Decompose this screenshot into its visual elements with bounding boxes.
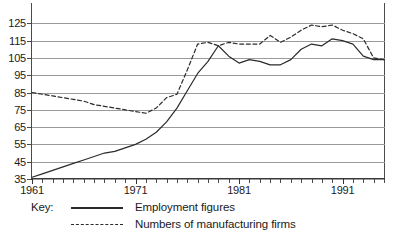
x-tick <box>249 179 250 183</box>
x-tick <box>363 179 364 183</box>
legend-sample-solid <box>71 207 123 209</box>
x-tick <box>53 179 54 183</box>
y-axis-tick-label: 55 <box>0 139 26 150</box>
x-axis-tick-label: 1971 <box>116 185 156 196</box>
x-tick <box>280 179 281 183</box>
legend-row: Key: Employment figures <box>31 199 391 216</box>
x-tick <box>104 179 105 183</box>
x-tick <box>208 179 209 183</box>
plot-area <box>31 3 385 179</box>
series-line-solid <box>32 39 384 177</box>
y-axis-tick-label: 65 <box>0 122 26 133</box>
x-tick <box>156 179 157 183</box>
x-tick <box>177 179 178 183</box>
series-line-dashed <box>32 25 384 113</box>
x-axis-tick-label: 1981 <box>219 185 259 196</box>
legend-label-firms: Numbers of manufacturing firms <box>135 218 296 230</box>
chart-legend: Key: Employment figures Numbers of manuf… <box>31 199 391 233</box>
x-axis-tick-label: 1991 <box>323 185 363 196</box>
x-tick <box>187 179 188 183</box>
x-tick <box>291 179 292 183</box>
x-tick <box>115 179 116 183</box>
y-axis-tick-label: 45 <box>0 157 26 168</box>
x-tick <box>384 179 385 183</box>
y-axis-tick-label: 125 <box>0 18 26 29</box>
y-axis-tick-label: 85 <box>0 88 26 99</box>
y-axis-tick-label: 105 <box>0 53 26 64</box>
x-tick <box>301 179 302 183</box>
x-tick <box>312 179 313 183</box>
legend-key-label: Key: <box>31 201 53 213</box>
x-tick <box>84 179 85 183</box>
x-tick <box>146 179 147 183</box>
x-tick <box>73 179 74 183</box>
x-tick <box>260 179 261 183</box>
x-tick <box>198 179 199 183</box>
x-tick <box>42 179 43 183</box>
legend-label-employment: Employment figures <box>135 201 235 213</box>
y-axis-tick-label: 115 <box>0 36 26 47</box>
x-tick <box>94 179 95 183</box>
x-tick <box>229 179 230 183</box>
series-lines <box>31 3 385 179</box>
x-tick <box>332 179 333 183</box>
legend-sample-dashed <box>71 224 123 225</box>
x-tick <box>270 179 271 183</box>
legend-row: Numbers of manufacturing firms <box>31 216 391 233</box>
x-tick <box>63 179 64 183</box>
y-axis-tick-label: 95 <box>0 70 26 81</box>
x-tick <box>125 179 126 183</box>
chart-figure: 35455565758595105115125 1961197119811991… <box>0 0 402 236</box>
x-tick <box>322 179 323 183</box>
x-tick <box>218 179 219 183</box>
x-tick <box>167 179 168 183</box>
x-tick <box>374 179 375 183</box>
x-tick <box>353 179 354 183</box>
y-axis-tick-label: 75 <box>0 105 26 116</box>
x-axis-tick-label: 1961 <box>12 185 52 196</box>
